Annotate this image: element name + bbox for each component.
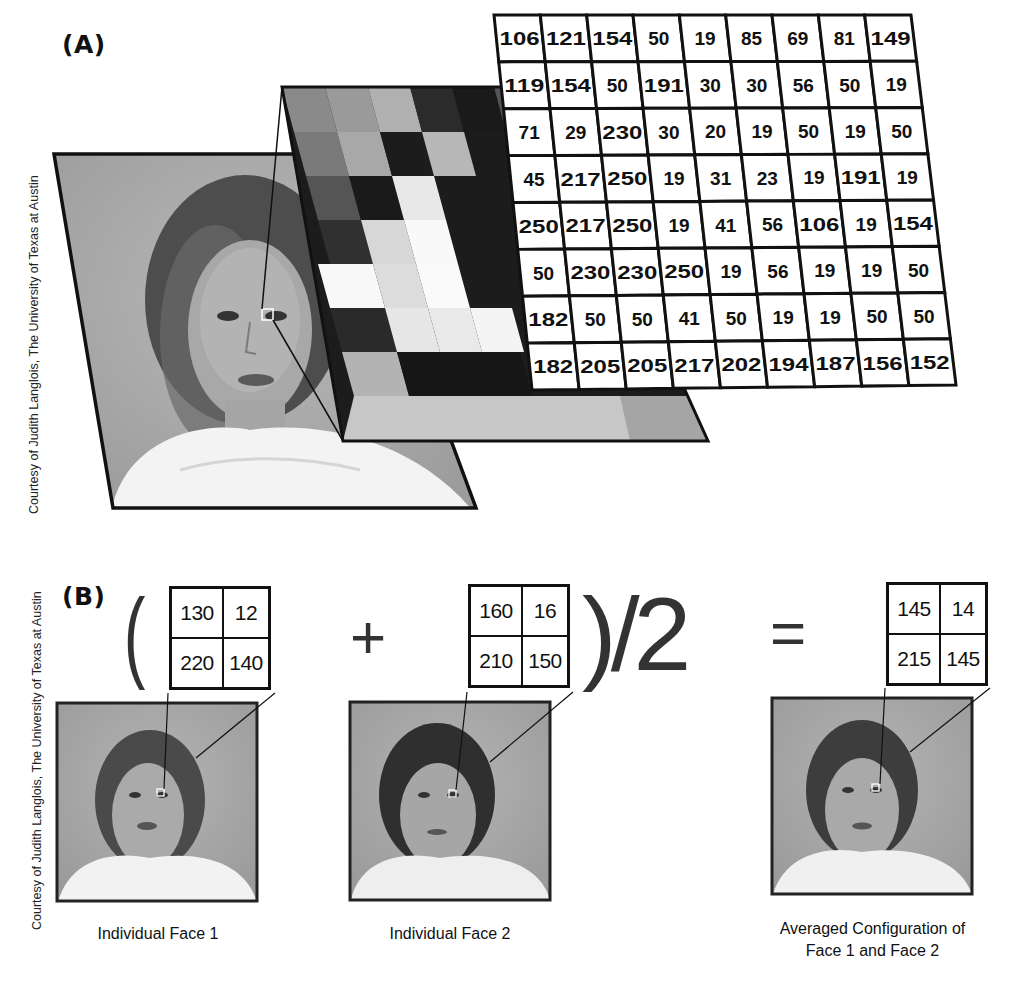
caption-line: Averaged Configuration of xyxy=(750,918,995,940)
caption-face-2: Individual Face 2 xyxy=(350,923,550,945)
panel-b-photos xyxy=(0,0,1019,1001)
caption-line: Face 1 and Face 2 xyxy=(750,940,995,962)
face-photo-2 xyxy=(350,702,550,900)
face-photo-averaged xyxy=(772,698,972,894)
caption-averaged-face: Averaged Configuration of Face 1 and Fac… xyxy=(750,918,995,962)
caption-line: Individual Face 1 xyxy=(58,923,258,945)
caption-line: Individual Face 2 xyxy=(350,923,550,945)
caption-face-1: Individual Face 1 xyxy=(58,923,258,945)
